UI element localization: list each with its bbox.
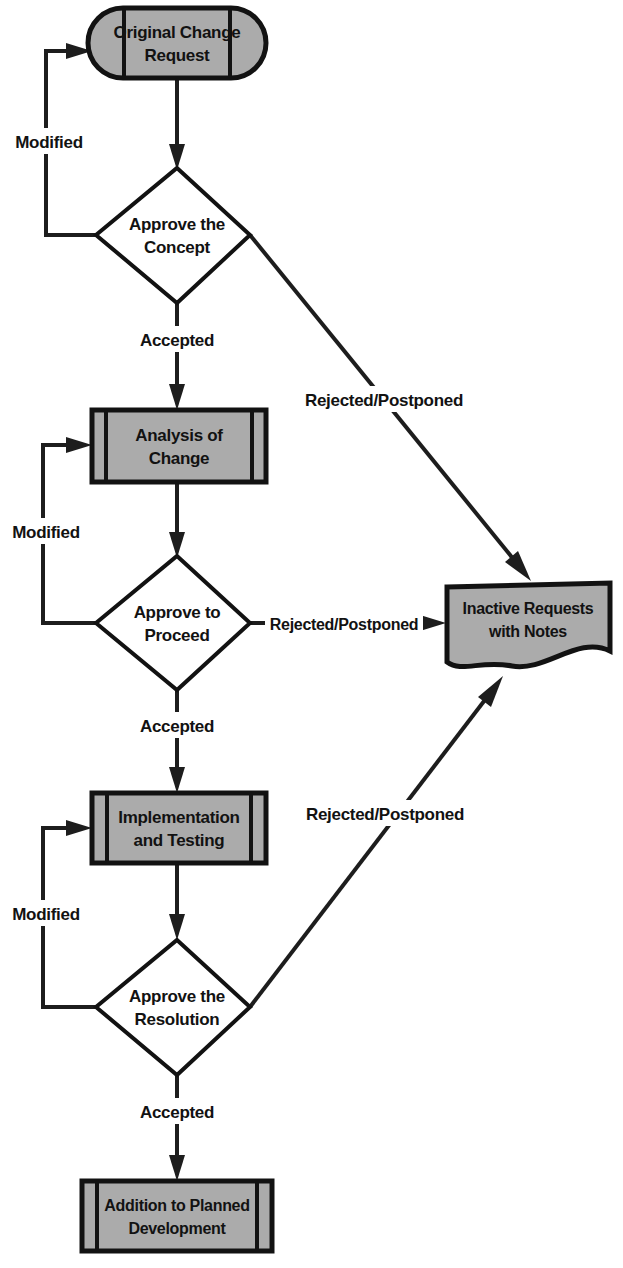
decision-body <box>96 168 250 303</box>
edge-label-rejected-3: Rejected/Postponed <box>297 800 473 826</box>
node-original-change-request[interactable]: Original Change Request <box>88 8 266 78</box>
node-label-line1: Approve to <box>134 603 221 622</box>
node-label-line2: Proceed <box>145 626 210 645</box>
edge-label-rejected-2: Rejected/Postponed <box>265 611 423 635</box>
node-label-line1: Implementation <box>118 808 239 827</box>
edge-label-modified-3: Modified <box>5 900 87 926</box>
edge-approve-resolution-rejected <box>250 676 503 1007</box>
flowchart-svg: Original Change Request Approve the Conc… <box>0 0 623 1268</box>
node-implementation-and-testing[interactable]: Implementation and Testing <box>92 793 266 863</box>
node-label-line2: Request <box>145 46 211 65</box>
edge-request-to-approve-concept <box>169 78 185 170</box>
node-label-line2: Development <box>128 1220 226 1237</box>
node-label-line2: Resolution <box>135 1010 220 1029</box>
process-body <box>82 1181 272 1251</box>
node-label-line1: Approve the <box>129 987 225 1006</box>
node-approve-to-proceed[interactable]: Approve to Proceed <box>96 556 250 690</box>
edge-label-text: Accepted <box>140 331 214 350</box>
node-approve-the-concept[interactable]: Approve the Concept <box>96 168 250 303</box>
node-label-line2: with Notes <box>488 623 567 640</box>
edge-approve-resolution-to-addition <box>169 1075 185 1181</box>
edge-label-text: Modified <box>15 133 82 152</box>
edge-label-text: Accepted <box>140 1103 214 1122</box>
edge-label-text: Rejected/Postponed <box>305 391 463 410</box>
decision-body <box>96 940 250 1075</box>
decision-body <box>96 556 250 690</box>
edge-implementation-to-approve-resolution <box>169 863 185 940</box>
node-inactive-requests-with-notes[interactable]: Inactive Requests with Notes <box>447 583 610 667</box>
edge-label-modified-2: Modified <box>5 518 87 544</box>
edge-label-text: Accepted <box>140 717 214 736</box>
node-approve-the-resolution[interactable]: Approve the Resolution <box>96 940 250 1075</box>
node-label-line2: and Testing <box>134 831 225 850</box>
node-label-line1: Original Change <box>114 23 241 42</box>
edge-label-accepted-1: Accepted <box>131 326 223 352</box>
node-label-line1: Approve the <box>129 215 225 234</box>
terminator-body <box>88 8 266 78</box>
node-analysis-of-change[interactable]: Analysis of Change <box>92 410 266 482</box>
process-body <box>92 410 266 482</box>
node-label-line2: Concept <box>144 238 211 257</box>
node-label-line1: Inactive Requests <box>463 600 594 617</box>
node-addition-to-planned-development[interactable]: Addition to Planned Development <box>82 1181 272 1251</box>
edge-label-text: Rejected/Postponed <box>306 805 464 824</box>
edge-approve-proceed-to-implementation <box>169 690 185 793</box>
node-label-line1: Analysis of <box>135 426 223 445</box>
edge-label-accepted-3: Accepted <box>131 1098 223 1124</box>
edge-label-rejected-1: Rejected/Postponed <box>296 386 472 412</box>
node-label-line2: Change <box>149 449 210 468</box>
edge-analysis-to-approve-proceed <box>169 482 185 558</box>
flowchart-canvas: Original Change Request Approve the Conc… <box>0 0 623 1268</box>
node-label-line1: Addition to Planned <box>104 1197 249 1214</box>
edge-label-text: Rejected/Postponed <box>270 616 418 633</box>
edge-label-modified-1: Modified <box>8 128 90 154</box>
edge-approve-concept-to-analysis <box>169 303 185 410</box>
edge-label-text: Modified <box>12 523 79 542</box>
edge-label-accepted-2: Accepted <box>131 712 223 738</box>
process-body <box>92 793 266 863</box>
edge-label-text: Modified <box>12 905 79 924</box>
